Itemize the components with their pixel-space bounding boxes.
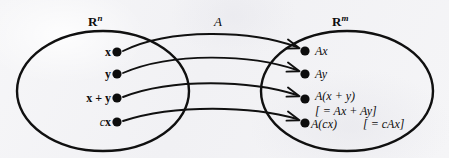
domain-set-base: R (88, 14, 97, 29)
codomain-label-a-cx-text: A(cx) (311, 117, 337, 131)
codomain-label-ax: Ax (315, 45, 328, 57)
codomain-label-ax-text: Ax (315, 44, 328, 58)
codomain-point-ay (300, 69, 309, 78)
codomain-point-a-x-plus-y (300, 94, 309, 103)
codomain-label-a-x-plus-y: A(x + y) (315, 90, 355, 102)
domain-set-superscript: n (97, 13, 102, 23)
codomain-note-a-x-plus-y-text: [ = Ax + Ay] (315, 104, 377, 118)
domain-point-cx (112, 117, 121, 126)
codomain-point-a-cx (300, 118, 309, 127)
domain-point-x (112, 47, 121, 56)
map-arrow-cx (123, 109, 300, 121)
domain-label-x-plus-y-vector: x + y (86, 91, 111, 105)
domain-label-cx-vector: x (105, 115, 111, 129)
diagram-canvas (0, 0, 449, 158)
map-label: A (214, 15, 222, 28)
domain-label-y: y (105, 68, 111, 80)
codomain-point-ax (300, 46, 309, 55)
domain-point-y (112, 69, 121, 78)
domain-label-x-vector: x (105, 45, 111, 59)
domain-label-y-vector: y (105, 67, 111, 81)
codomain-label-ay: Ay (315, 68, 327, 80)
codomain-set-base: R (332, 14, 341, 29)
codomain-set-label: Rm (332, 14, 348, 28)
codomain-label-a-cx: A(cx) (311, 118, 337, 130)
domain-label-x: x (105, 46, 111, 58)
domain-set-label: Rn (88, 14, 102, 28)
codomain-set-superscript: m (341, 13, 348, 23)
codomain-note-a-cx: [ = cAx] (363, 118, 404, 130)
domain-point-x-plus-y (112, 93, 121, 102)
linear-map-figure: Rn Rm A x y x + y cx Ax Ay A(x + y) [ = … (0, 0, 449, 158)
domain-label-cx: cx (100, 116, 111, 128)
codomain-label-ay-text: Ay (315, 67, 327, 81)
codomain-note-a-x-plus-y: [ = Ax + Ay] (315, 105, 377, 117)
map-arrow-x-plus-y (123, 83, 300, 97)
map-arrow-x (123, 34, 300, 51)
codomain-label-a-x-plus-y-text: A(x + y) (315, 89, 355, 103)
codomain-note-a-cx-text: [ = cAx] (363, 117, 404, 131)
domain-label-x-plus-y: x + y (86, 92, 111, 104)
